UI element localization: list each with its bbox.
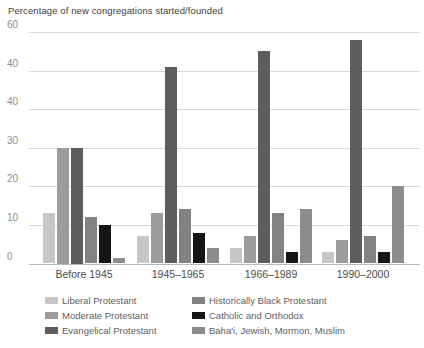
y-tick-label: 30 <box>7 135 18 147</box>
bar-evangelical-protestant-1945-1965 <box>165 67 177 264</box>
legend-label-evangelical-protestant: Evangelical Protestant <box>62 325 157 336</box>
x-category-label: Before 1945 <box>39 268 129 280</box>
legend-swatch-moderate-protestant <box>45 312 58 319</box>
gridline-60 <box>29 32 420 33</box>
bar-historically-black-protestant-before-1945 <box>85 217 97 263</box>
y-tick-label: 60 <box>7 19 18 31</box>
y-tick-label: 0 <box>7 251 13 263</box>
legend-label-moderate-protestant: Moderate Protestant <box>62 310 148 321</box>
legend-label-historically-black-protestant: Historically Black Protestant <box>209 295 327 306</box>
bar-catholic-and-orthodox-1990-2000 <box>378 252 390 264</box>
legend-label-liberal-protestant: Liberal Protestant <box>62 295 136 306</box>
bar-liberal-protestant-1966-1989 <box>230 248 242 263</box>
bar-liberal-protestant-1990-2000 <box>322 252 334 264</box>
y-tick-label: 20 <box>7 173 18 185</box>
bar-evangelical-protestant-before-1945 <box>71 148 83 264</box>
legend-swatch-catholic-and-orthodox <box>192 312 205 319</box>
chart-title: Percentage of new congregations started/… <box>8 5 223 16</box>
legend-label-catholic-and-orthodox: Catholic and Orthodox <box>209 310 304 321</box>
bar-liberal-protestant-before-1945 <box>43 213 55 263</box>
y-tick-label: 10 <box>7 212 18 224</box>
legend-swatch-baha-i-jewish-mormon-muslim <box>192 327 205 334</box>
bar-catholic-and-orthodox-1966-1989 <box>286 252 298 264</box>
legend-swatch-evangelical-protestant <box>45 327 58 334</box>
x-category-label: 1945–1965 <box>133 268 223 280</box>
bar-moderate-protestant-1966-1989 <box>244 236 256 263</box>
bar-moderate-protestant-before-1945 <box>57 148 69 264</box>
x-category-label: 1990–2000 <box>318 268 408 280</box>
bar-moderate-protestant-1990-2000 <box>336 240 348 263</box>
bar-liberal-protestant-1945-1965 <box>137 236 149 263</box>
bar-baha-i-jewish-mormon-muslim-1945-1965 <box>207 248 219 263</box>
bar-baha-i-jewish-mormon-muslim-1966-1989 <box>300 209 312 263</box>
y-tick-label: 40 <box>7 58 18 70</box>
bar-evangelical-protestant-1966-1989 <box>258 51 270 263</box>
bar-moderate-protestant-1945-1965 <box>151 213 163 263</box>
gridline-0 <box>29 264 420 265</box>
legend-swatch-liberal-protestant <box>45 297 58 304</box>
bar-catholic-and-orthodox-before-1945 <box>99 225 111 264</box>
bar-catholic-and-orthodox-1945-1965 <box>193 233 205 264</box>
x-category-label: 1966–1989 <box>226 268 316 280</box>
bar-chart-figure: Percentage of new congregations started/… <box>0 0 424 348</box>
y-tick-label: 40 <box>7 96 18 108</box>
bar-baha-i-jewish-mormon-muslim-before-1945 <box>113 258 125 264</box>
bar-historically-black-protestant-1990-2000 <box>364 236 376 263</box>
legend-label-baha-i-jewish-mormon-muslim: Baha'i, Jewish, Mormon, Muslim <box>209 325 345 336</box>
bar-evangelical-protestant-1990-2000 <box>350 40 362 264</box>
bar-historically-black-protestant-1945-1965 <box>179 209 191 263</box>
bar-baha-i-jewish-mormon-muslim-1990-2000 <box>392 186 404 263</box>
bar-historically-black-protestant-1966-1989 <box>272 213 284 263</box>
legend-swatch-historically-black-protestant <box>192 297 205 304</box>
